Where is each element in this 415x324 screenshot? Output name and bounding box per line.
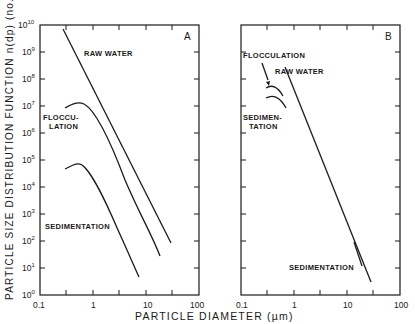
- x-axis-label: PARTICLE DIAMETER (µm): [135, 310, 294, 322]
- a-raw-water-line: [63, 29, 171, 243]
- svg-text:0.1: 0.1: [33, 300, 45, 310]
- a-sedimentation-line: [65, 164, 139, 277]
- x-tick-labels: 0.1 1 10 100 0.1 1 10 100: [33, 300, 408, 310]
- b-floc-label: FLOCCULATION: [243, 51, 305, 60]
- b-sed-label-2: TATION: [249, 122, 278, 131]
- panel-b-curves: [262, 63, 371, 282]
- svg-text:108: 108: [22, 73, 35, 84]
- svg-text:1: 1: [292, 300, 297, 310]
- b-sedimentation-large-line: [354, 242, 362, 266]
- svg-text:1010: 1010: [18, 19, 35, 30]
- b-sed-label-1: SEDIMEN-: [243, 113, 282, 122]
- a-floc-label-2: LATION: [49, 122, 78, 131]
- svg-text:105: 105: [22, 154, 35, 165]
- svg-text:10: 10: [343, 300, 353, 310]
- b-raw-water-line: [285, 67, 371, 282]
- panel-b-frame: [241, 25, 400, 295]
- svg-text:100: 100: [22, 289, 35, 300]
- y-axis-label: PARTICLE SIZE DISTRIBUTION FUNCTION n(dp…: [4, 0, 15, 300]
- panel-a-label: A: [184, 31, 191, 42]
- a-sed-label: SEDIMENTATION: [45, 222, 110, 231]
- svg-text:102: 102: [22, 235, 35, 246]
- svg-text:0.1: 0.1: [236, 300, 248, 310]
- svg-text:100: 100: [394, 300, 408, 310]
- y-tick-labels: 1010 109 108 107 106 105 104 103 102 101…: [18, 19, 35, 300]
- svg-text:109: 109: [22, 46, 35, 57]
- svg-text:107: 107: [22, 100, 35, 111]
- b-flocculation-line: [266, 86, 283, 96]
- svg-text:104: 104: [22, 181, 35, 192]
- svg-text:1: 1: [91, 300, 96, 310]
- panel-b-label: B: [385, 31, 392, 42]
- svg-text:10: 10: [143, 300, 153, 310]
- panel-a-frame: [40, 25, 199, 295]
- b-raw-water-label: RAW WATER: [275, 67, 324, 76]
- svg-text:103: 103: [22, 208, 35, 219]
- arrow-head-icon: [266, 81, 270, 86]
- b-floc-arrow: [262, 63, 268, 80]
- svg-text:100: 100: [190, 300, 204, 310]
- panel-a-curves: [63, 29, 171, 277]
- svg-text:106: 106: [22, 127, 35, 138]
- b-sedimentation-line: [266, 96, 286, 108]
- b-sed-big-label: SEDIMENTATION: [289, 263, 354, 272]
- a-raw-water-label: RAW WATER: [84, 49, 133, 58]
- y-ticks: [40, 52, 400, 268]
- svg-text:101: 101: [22, 262, 35, 273]
- x-ticks: [66, 25, 373, 295]
- chart-figure: 1010 109 108 107 106 105 104 103 102 101…: [0, 0, 415, 324]
- a-floc-label-1: FLOCCU-: [43, 113, 79, 122]
